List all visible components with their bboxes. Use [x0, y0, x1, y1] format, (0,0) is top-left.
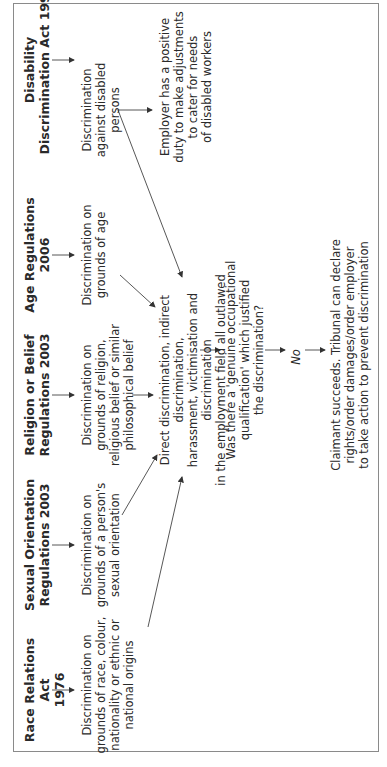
- description-race: Discrimination on grounds of race, colou…: [80, 615, 136, 755]
- heading-sexual-orientation-regulations: Sexual Orientation Regulations 2003: [22, 475, 52, 615]
- description-age: Discrimination on grounds of age: [80, 195, 108, 315]
- heading-age-regulations: Age Regulations 2006: [22, 190, 52, 320]
- answer-no: No: [289, 327, 303, 387]
- flowchart-canvas: Race Relations Act 1976 Sexual Orientati…: [0, 0, 387, 767]
- claimant-succeeds-outcome: Claimant succeeds. Tribunal can declare …: [329, 235, 371, 475]
- arrow-age-to-outlawed: [120, 275, 155, 307]
- heading-race-relations-act: Race Relations Act 1976: [22, 625, 67, 755]
- description-disability: Discrimination against disabled persons: [80, 50, 122, 170]
- heading-religion-belief-regulations: Religion or Belief Regulations 2003: [22, 325, 52, 465]
- description-religion-belief: Discrimination on grounds of religion, r…: [80, 320, 136, 470]
- outlawed-discrimination-box: Direct discrimination, indirect discrimi…: [158, 255, 228, 505]
- heading-disability-discrimination-act: Disability Discrimination Act 1995: [22, 0, 52, 155]
- genuine-occupational-qualification-question: Was there a 'genuine occupational qualif…: [224, 260, 266, 460]
- employer-positive-duty: Employer has a positive duty to make adj…: [158, 7, 214, 167]
- description-sexual-orientation: Discrimination on grounds of a person's …: [80, 475, 122, 615]
